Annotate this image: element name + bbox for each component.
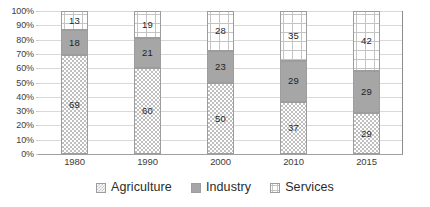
x-tick-label: 2015 bbox=[330, 156, 403, 167]
bar-value-label: 18 bbox=[69, 38, 80, 48]
y-axis: 100%90%80%70%60%50%40%30%20%10%0% bbox=[0, 11, 36, 154]
bar-segment-agriculture[interactable]: 69 bbox=[61, 55, 88, 154]
legend-label: Agriculture bbox=[111, 181, 172, 194]
bar-value-label: 50 bbox=[215, 114, 226, 124]
bar-value-label: 35 bbox=[288, 31, 299, 41]
y-tick-label: 0% bbox=[21, 150, 34, 159]
legend-item-agriculture[interactable]: Agriculture bbox=[96, 181, 172, 194]
plot-area: 691813602119502328372935292942 bbox=[38, 11, 403, 154]
bar-value-label: 28 bbox=[215, 26, 226, 36]
bar-value-label: 42 bbox=[361, 36, 372, 46]
bar-series-group: 691813602119502328372935292942 bbox=[38, 11, 403, 154]
bar-segment-services[interactable]: 13 bbox=[61, 11, 88, 30]
x-axis: 19801990200020102015 bbox=[38, 156, 403, 172]
x-tick-label: 2010 bbox=[257, 156, 330, 167]
bar-segment-agriculture[interactable]: 29 bbox=[353, 113, 380, 154]
bar-column[interactable]: 502328 bbox=[207, 11, 234, 154]
bar-segment-services[interactable]: 28 bbox=[207, 11, 234, 51]
bar-value-label: 19 bbox=[142, 20, 153, 30]
chart-plot-wrapper: 100%90%80%70%60%50%40%30%20%10%0% 691813… bbox=[0, 0, 430, 170]
chart-legend: AgricultureIndustryServices bbox=[0, 181, 430, 194]
bar-segment-industry[interactable]: 29 bbox=[280, 61, 307, 102]
y-tick-label: 40% bbox=[16, 92, 34, 101]
bar-column[interactable]: 602119 bbox=[134, 11, 161, 154]
y-tick-label: 70% bbox=[16, 49, 34, 58]
y-tick-label: 20% bbox=[16, 121, 34, 130]
bar-value-label: 29 bbox=[361, 129, 372, 139]
y-tick-label: 10% bbox=[16, 135, 34, 144]
bar-segment-industry[interactable]: 23 bbox=[207, 51, 234, 84]
bar-column[interactable]: 372935 bbox=[280, 11, 307, 154]
y-tick-label: 100% bbox=[11, 7, 34, 16]
bar-segment-industry[interactable]: 29 bbox=[353, 71, 380, 112]
legend-item-industry[interactable]: Industry bbox=[191, 181, 251, 194]
x-tick-label: 1980 bbox=[38, 156, 111, 167]
bar-value-label: 69 bbox=[69, 100, 80, 110]
bar-value-label: 13 bbox=[69, 16, 80, 26]
y-tick-label: 50% bbox=[16, 78, 34, 87]
legend-label: Industry bbox=[206, 181, 251, 194]
bar-value-label: 29 bbox=[288, 76, 299, 86]
bar-segment-agriculture[interactable]: 60 bbox=[134, 68, 161, 154]
plot-right-border bbox=[402, 11, 403, 154]
bar-segment-services[interactable]: 35 bbox=[280, 11, 307, 61]
x-tick-label: 1990 bbox=[111, 156, 184, 167]
y-tick-label: 80% bbox=[16, 35, 34, 44]
bar-segment-industry[interactable]: 21 bbox=[134, 38, 161, 68]
solid-grey-swatch bbox=[191, 183, 201, 193]
bar-segment-services[interactable]: 42 bbox=[353, 11, 380, 71]
y-tick-label: 60% bbox=[16, 64, 34, 73]
bar-column[interactable]: 691813 bbox=[61, 11, 88, 154]
bar-value-label: 21 bbox=[142, 48, 153, 58]
legend-item-services[interactable]: Services bbox=[270, 181, 334, 194]
legend-label: Services bbox=[285, 181, 334, 194]
y-tick-label: 30% bbox=[16, 107, 34, 116]
grid-swatch bbox=[270, 183, 280, 193]
bar-segment-services[interactable]: 19 bbox=[134, 11, 161, 38]
bar-column[interactable]: 292942 bbox=[353, 11, 380, 154]
axis-baseline bbox=[38, 154, 403, 155]
bar-segment-agriculture[interactable]: 37 bbox=[280, 102, 307, 154]
x-tick-label: 2000 bbox=[184, 156, 257, 167]
bar-segment-agriculture[interactable]: 50 bbox=[207, 83, 234, 154]
bar-value-label: 23 bbox=[215, 62, 226, 72]
checkerboard-swatch bbox=[96, 183, 106, 193]
bar-value-label: 60 bbox=[142, 106, 153, 116]
bar-value-label: 37 bbox=[288, 123, 299, 133]
bar-segment-industry[interactable]: 18 bbox=[61, 30, 88, 56]
y-tick-label: 90% bbox=[16, 21, 34, 30]
bar-value-label: 29 bbox=[361, 87, 372, 97]
